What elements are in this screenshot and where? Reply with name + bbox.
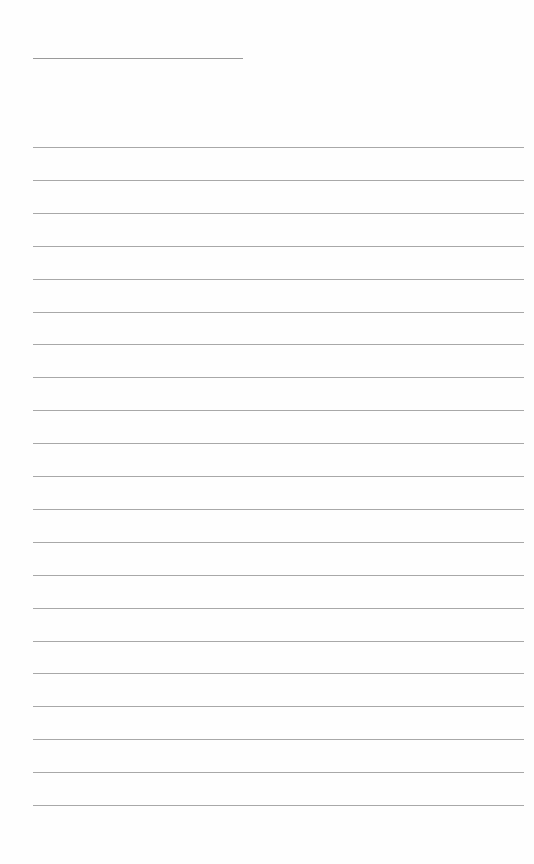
writing-line <box>33 542 524 543</box>
writing-line <box>33 377 524 378</box>
writing-line <box>33 147 524 148</box>
writing-line <box>33 641 524 642</box>
writing-line <box>33 509 524 510</box>
writing-line <box>33 772 524 773</box>
writing-line <box>33 344 524 345</box>
writing-line <box>33 312 524 313</box>
writing-line <box>33 575 524 576</box>
writing-line <box>33 279 524 280</box>
writing-line <box>33 246 524 247</box>
writing-line <box>33 805 524 806</box>
lined-page <box>0 0 534 864</box>
writing-line <box>33 476 524 477</box>
writing-line <box>33 213 524 214</box>
writing-line <box>33 410 524 411</box>
writing-line <box>33 739 524 740</box>
writing-line <box>33 443 524 444</box>
writing-line <box>33 180 524 181</box>
writing-line <box>33 673 524 674</box>
writing-line <box>33 706 524 707</box>
header-title-line <box>33 58 243 59</box>
writing-line <box>33 608 524 609</box>
